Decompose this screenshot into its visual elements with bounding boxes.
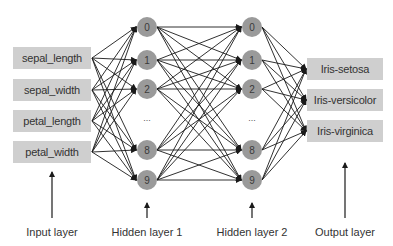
- output-layer-label: Output layer: [315, 226, 375, 238]
- node-label: 0: [144, 22, 150, 33]
- input-feature-sepal-length: sepal_length: [13, 47, 91, 69]
- hidden2-node-2: 2: [242, 79, 262, 99]
- hidden2-node-0: 0: [242, 17, 262, 37]
- node-label: 9: [144, 175, 150, 186]
- hidden-layer-2-label: Hidden layer 2: [217, 226, 288, 238]
- hidden1-ellipsis: ...: [137, 113, 157, 123]
- node-label: 1: [249, 55, 255, 66]
- hidden2-node-1: 1: [242, 50, 262, 70]
- hidden1-node-1: 1: [137, 50, 157, 70]
- input-feature-label: sepal_width: [24, 84, 80, 96]
- hidden1-node-0: 0: [137, 17, 157, 37]
- input-feature-label: sepal_length: [22, 52, 82, 64]
- output-class-label: Iris-versicolor: [314, 94, 376, 106]
- node-label: 8: [144, 145, 150, 156]
- output-class-iris-virginica: Iris-virginica: [307, 120, 383, 142]
- hidden1-node-2: 2: [137, 79, 157, 99]
- hidden2-node-8: 8: [242, 140, 262, 160]
- node-label: 1: [144, 55, 150, 66]
- hidden2-ellipsis: ...: [242, 113, 262, 123]
- input-feature-sepal-width: sepal_width: [13, 79, 91, 101]
- node-label: 0: [249, 22, 255, 33]
- output-class-iris-versicolor: Iris-versicolor: [307, 89, 383, 111]
- hidden-layer-1-label: Hidden layer 1: [112, 226, 183, 238]
- input-layer-label: Input layer: [26, 226, 77, 238]
- hidden1-node-9: 9: [137, 170, 157, 190]
- node-label: 8: [249, 145, 255, 156]
- input-feature-petal-width: petal_width: [13, 141, 91, 163]
- hidden2-node-9: 9: [242, 170, 262, 190]
- output-class-iris-setosa: Iris-setosa: [307, 58, 383, 80]
- input-feature-petal-length: petal_length: [13, 110, 91, 132]
- input-feature-label: petal_length: [23, 115, 81, 127]
- output-class-label: Iris-virginica: [317, 125, 373, 137]
- output-class-label: Iris-setosa: [321, 63, 370, 75]
- input-feature-label: petal_width: [25, 146, 78, 158]
- node-label: 9: [249, 175, 255, 186]
- node-label: 2: [249, 84, 255, 95]
- neural-network-diagram: sepal_length sepal_width petal_length pe…: [0, 0, 393, 246]
- hidden1-node-8: 8: [137, 140, 157, 160]
- node-label: 2: [144, 84, 150, 95]
